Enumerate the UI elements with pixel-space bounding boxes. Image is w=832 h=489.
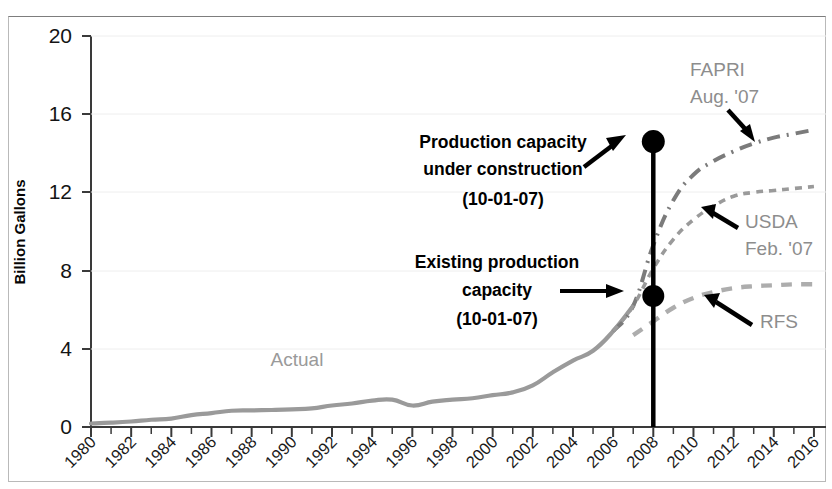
x-tick-label: 2012 [703, 432, 742, 471]
y-axis-title: Billion Gallons [11, 179, 28, 284]
ethanol-production-chart-figure: 20 16 12 8 4 0 Billion Gallons 198019821… [0, 0, 832, 489]
x-tick-labels: 1980198219841986198819901992199419961998… [60, 432, 822, 471]
annotation-line: (10-01-07) [456, 309, 538, 329]
annotation-usda: USDA Feb. '07 [701, 204, 813, 259]
x-tick-label: 2006 [583, 432, 622, 471]
annotation-actual: Actual [271, 349, 324, 370]
annotation-arrow-shaft [716, 302, 752, 325]
annotation-line: under construction [423, 159, 582, 179]
marker-production-capacity-under-construction [642, 130, 665, 153]
x-tick-label: 1984 [141, 432, 180, 471]
x-tick-label: 1980 [60, 432, 99, 471]
y-tick-label: 0 [60, 415, 72, 438]
series-line-actual [91, 306, 633, 424]
annotation-line: FAPRI [690, 59, 745, 80]
x-tick-label: 2004 [542, 432, 581, 471]
y-tick-label: 20 [49, 24, 72, 47]
y-tick-marks [82, 36, 91, 427]
x-tick-label: 1998 [422, 432, 461, 471]
annotation-line: (10-01-07) [462, 189, 544, 209]
annotation-arrow-head [606, 284, 624, 298]
x-tick-label: 1996 [382, 432, 421, 471]
x-tick-label: 2014 [743, 432, 782, 471]
x-tick-label: 1990 [261, 432, 300, 471]
annotation-line: Existing production [415, 252, 579, 272]
annotation-line: USDA [745, 211, 798, 232]
chart-canvas: 20 16 12 8 4 0 Billion Gallons 198019821… [0, 0, 832, 489]
annotation-fapri: FAPRI Aug. '07 [690, 59, 759, 142]
annotation-arrow-shaft [713, 213, 738, 228]
annotation-line: capacity [462, 280, 532, 300]
annotation-existing-capacity: Existing production capacity (10-01-07) [415, 252, 624, 329]
y-tick-label: 4 [60, 337, 72, 360]
x-tick-label: 2010 [663, 432, 702, 471]
y-tick-label: 8 [60, 259, 72, 282]
annotation-line: RFS [760, 311, 798, 332]
x-tick-label: 1994 [342, 432, 381, 471]
x-major-tick-marks [91, 427, 814, 437]
marker-existing-production-capacity [642, 285, 664, 307]
annotation-line: Feb. '07 [745, 238, 813, 259]
x-tick-label: 2016 [783, 432, 822, 471]
y-tick-label: 16 [49, 102, 72, 125]
annotation-line: Aug. '07 [690, 86, 759, 107]
y-tick-label: 12 [49, 180, 72, 203]
x-tick-label: 2000 [462, 432, 501, 471]
x-tick-label: 1986 [181, 432, 220, 471]
annotation-arrow-head [701, 204, 716, 219]
x-tick-label: 1988 [221, 432, 260, 471]
annotation-production-capacity: Production capacity under construction (… [419, 132, 626, 209]
x-tick-label: 1992 [301, 432, 340, 471]
x-tick-label: 2002 [502, 432, 541, 471]
annotation-rfs: RFS [704, 293, 798, 332]
x-tick-label: 1982 [101, 432, 140, 471]
x-tick-label: 2008 [623, 432, 662, 471]
annotation-line: Production capacity [419, 132, 587, 152]
